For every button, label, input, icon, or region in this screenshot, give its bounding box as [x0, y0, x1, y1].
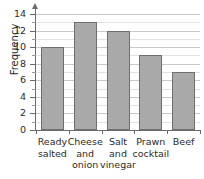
bar [172, 72, 195, 130]
x-axis-line [35, 130, 201, 131]
y-tick-label: 0 [4, 125, 26, 135]
x-tick [102, 130, 103, 134]
x-axis-labels: ReadysaltedCheeseandonionSaltandvinegarP… [36, 136, 202, 179]
x-label-line: and [109, 148, 127, 159]
bar [139, 55, 162, 130]
x-label-line: onion [72, 159, 98, 170]
x-label-line: Prawn [136, 136, 165, 147]
x-tick [200, 130, 201, 134]
y-tick-label: 2 [4, 108, 26, 118]
y-tick-label: 8 [4, 59, 26, 69]
x-tick [36, 130, 37, 134]
bar [41, 47, 64, 130]
x-tick [167, 130, 168, 134]
x-label-line: vinegar [100, 159, 136, 170]
x-label-line: Ready [38, 136, 68, 147]
y-tick-label: 4 [4, 92, 26, 102]
x-label-line: cocktail [132, 148, 169, 159]
plot-area [36, 14, 200, 130]
bar-chart: Frequency 02468101214 ReadysaltedCheesea… [0, 0, 204, 179]
y-tick-label: 12 [4, 26, 26, 36]
bar [107, 31, 130, 130]
x-label-line: and [76, 148, 94, 159]
x-label-line: salted [38, 148, 67, 159]
x-axis-category-label: Beef [164, 136, 203, 148]
x-label-line: Salt [109, 136, 127, 147]
y-tick-label: 14 [4, 9, 26, 19]
y-tick-label: 10 [4, 42, 26, 52]
y-axis-arrow-icon [32, 3, 38, 9]
x-tick [69, 130, 70, 134]
y-tick-label: 6 [4, 75, 26, 85]
bar [74, 22, 97, 130]
x-label-line: Cheese [68, 136, 103, 147]
x-label-line: Beef [173, 136, 195, 147]
x-tick [134, 130, 135, 134]
